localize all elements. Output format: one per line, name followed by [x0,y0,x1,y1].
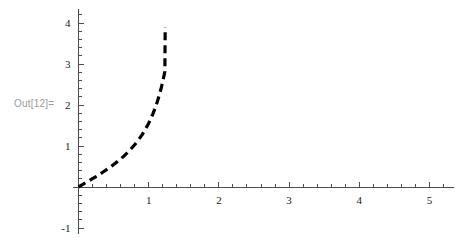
svg-text:-1: -1 [61,222,70,234]
svg-text:5: 5 [427,194,433,206]
function-plot: 12345-11234 [0,0,455,238]
svg-text:1: 1 [146,194,152,206]
svg-text:3: 3 [286,194,292,206]
axes [73,9,454,235]
plot-output-cell: Out[12]= 12345-11234 [0,0,455,238]
svg-text:2: 2 [216,194,222,206]
curve-series [79,27,166,187]
tick-marks [78,15,444,228]
svg-text:4: 4 [357,194,363,206]
tick-labels: 12345-11234 [61,17,432,234]
svg-text:4: 4 [65,17,71,29]
svg-text:1: 1 [65,140,71,152]
svg-text:3: 3 [65,58,71,70]
svg-text:2: 2 [65,99,71,111]
